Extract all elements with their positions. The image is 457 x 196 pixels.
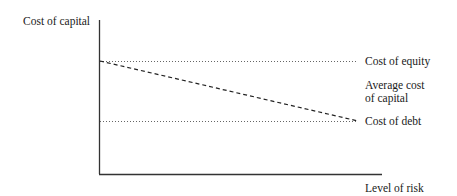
average-cost-of-capital-line — [100, 61, 358, 121]
cost-of-equity-label: Cost of equity — [365, 54, 430, 68]
y-axis-label: Cost of capital — [23, 14, 90, 28]
x-axis-label: Level of risk — [365, 181, 424, 195]
cost-of-debt-label: Cost of debt — [365, 114, 421, 128]
average-cost-label-line2: of capital — [365, 91, 408, 105]
average-cost-label-line1: Average cost — [365, 78, 425, 92]
